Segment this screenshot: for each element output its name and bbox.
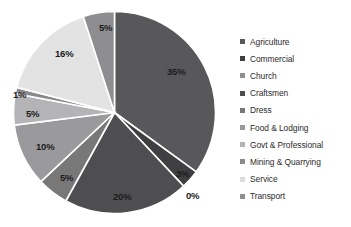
legend-swatch-icon: [240, 125, 245, 130]
legend-item-label: Food & Lodging: [250, 123, 308, 133]
legend-swatch-icon: [240, 159, 245, 164]
legend-swatch-icon: [240, 56, 245, 61]
legend-item[interactable]: Govt & Professional: [240, 136, 351, 153]
pie-data-label: 5%: [99, 22, 112, 33]
legend-item[interactable]: Craftsmen: [240, 85, 351, 102]
legend-item[interactable]: Commercial: [240, 50, 351, 67]
legend-item[interactable]: Agriculture: [240, 33, 351, 50]
legend-item[interactable]: Food & Lodging: [240, 119, 351, 136]
pie-data-label: 5%: [60, 172, 73, 183]
legend-swatch-icon: [240, 142, 245, 147]
pie-chart-area: 35%3%0%20%5%10%5%1%16%5%: [0, 0, 228, 227]
legend-item-label: Dress: [250, 105, 272, 115]
pie-data-label: 10%: [36, 141, 54, 152]
legend-item-label: Craftsmen: [250, 88, 288, 98]
legend-item-label: Commercial: [250, 54, 294, 64]
legend-item-label: Agriculture: [250, 37, 289, 47]
legend-item[interactable]: Transport: [240, 188, 351, 205]
legend-item-label: Church: [250, 71, 277, 81]
legend-item-label: Transport: [250, 191, 285, 201]
legend-swatch-icon: [240, 108, 245, 113]
pie-data-label: 35%: [167, 66, 185, 77]
pie-chart-screenshot: 35%3%0%20%5%10%5%1%16%5% AgricultureComm…: [0, 0, 351, 227]
legend-swatch-icon: [240, 91, 245, 96]
chart-legend: AgricultureCommercialChurchCraftsmenDres…: [240, 33, 351, 205]
pie-data-label: 3%: [176, 168, 189, 179]
legend-item[interactable]: Church: [240, 67, 351, 84]
legend-swatch-icon: [240, 73, 245, 78]
legend-swatch-icon: [240, 39, 245, 44]
legend-swatch-icon: [240, 194, 245, 199]
legend-item[interactable]: Service: [240, 171, 351, 188]
pie-chart-svg: [12, 10, 217, 215]
legend-item-label: Govt & Professional: [250, 140, 323, 150]
legend-item-label: Service: [250, 174, 278, 184]
legend-item-label: Mining & Quarrying: [250, 157, 321, 167]
pie-data-label: 1%: [13, 89, 26, 100]
pie-data-label: 5%: [26, 108, 39, 119]
legend-item[interactable]: Dress: [240, 102, 351, 119]
pie-data-label: 20%: [113, 191, 131, 202]
legend-swatch-icon: [240, 177, 245, 182]
pie-data-label: 0%: [186, 190, 199, 201]
legend-item[interactable]: Mining & Quarrying: [240, 153, 351, 170]
pie-data-label: 16%: [55, 48, 73, 59]
